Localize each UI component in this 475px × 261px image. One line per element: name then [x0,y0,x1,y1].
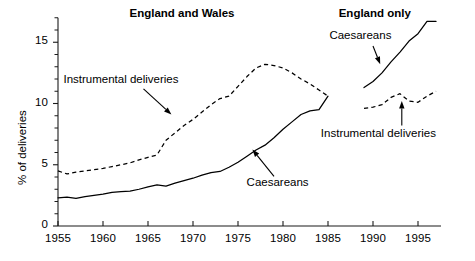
annotation-leader-line [144,89,166,110]
y-axis-tick-label: 0 [14,218,48,230]
annotation-leader-line [257,155,274,176]
x-axis-tick-label: 1985 [308,232,348,244]
series-annotation-label: Instrumental deliveries [318,127,438,139]
data-series [58,21,436,198]
chart-figure: 0510151955196019651970197519801985199019… [0,0,475,261]
series-line-instrumental-deliveries-england-only [364,91,436,108]
x-axis-tick-label: 1960 [83,232,123,244]
y-axis-tick-label: 10 [14,96,48,108]
x-axis-tick-label: 1955 [38,232,78,244]
x-axis-tick-label: 1980 [263,232,303,244]
y-axis-title: % of deliveries [16,110,28,185]
series-annotation-label: Caesareans [218,176,338,188]
x-axis-tick-label: 1995 [398,232,438,244]
panel-title-england-only: England only [325,7,425,19]
x-axis-tick-label: 1970 [173,232,213,244]
panel-title-england-and-wales: England and Wales [130,7,230,19]
annotation-arrowhead [399,101,404,109]
annotation-leader-line [373,46,377,57]
series-annotation-label: Caesareans [300,29,420,41]
annotation-arrowhead [375,56,380,64]
x-axis-tick-label: 1990 [353,232,393,244]
series-annotation-label: Instrumental deliveries [61,73,181,85]
y-axis-tick-label: 15 [14,34,48,46]
x-axis-tick-label: 1975 [218,232,258,244]
x-axis-tick-label: 1965 [128,232,168,244]
axes [53,18,441,226]
